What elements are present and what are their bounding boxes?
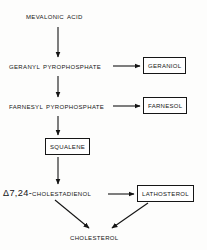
node-cholestadienol: Δ7,24-Cholestadienol: [3, 188, 91, 199]
edge-lathosterol-to-cholesterol: [112, 203, 148, 228]
node-cholesterol: Cholesterol: [70, 232, 119, 243]
node-label: Squalene: [50, 141, 85, 151]
diagram-connectors: [0, 0, 207, 250]
node-squalene: Squalene: [45, 138, 90, 155]
node-label: Lathosterol: [142, 188, 189, 198]
node-label: Mevalonic acid: [26, 11, 83, 21]
pathway-diagram: Mevalonic acid Geranyl pyrophosphate Far…: [0, 0, 207, 250]
node-mevalonic-acid: Mevalonic acid: [26, 11, 83, 22]
node-label: Farnesol: [148, 100, 182, 110]
node-lathosterol: Lathosterol: [137, 185, 194, 202]
edge-cholestadienol-to-cholesterol: [55, 200, 89, 228]
node-farnesyl-pyrophosphate: Farnesyl pyrophosphate: [9, 101, 104, 112]
node-label: Geranyl pyrophosphate: [9, 61, 101, 71]
node-label: Cholesterol: [70, 232, 119, 242]
node-geranyl-pyrophosphate: Geranyl pyrophosphate: [9, 61, 101, 72]
node-label: Farnesyl pyrophosphate: [9, 101, 104, 111]
node-label: Geraniol: [148, 60, 181, 70]
node-geraniol: Geraniol: [143, 57, 186, 74]
node-farnesol: Farnesol: [143, 97, 187, 114]
node-label: 7,24-Cholestadienol: [9, 188, 91, 198]
